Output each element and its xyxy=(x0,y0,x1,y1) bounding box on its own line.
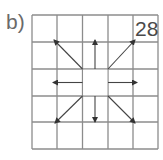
figure-number: 28 xyxy=(135,17,158,41)
arrow-down-right-icon xyxy=(108,96,135,123)
arrow-down-left-icon xyxy=(55,96,83,123)
arrow-up-left-icon xyxy=(54,40,83,69)
center-cell xyxy=(83,70,107,96)
arrow-up-right-icon xyxy=(108,40,135,69)
